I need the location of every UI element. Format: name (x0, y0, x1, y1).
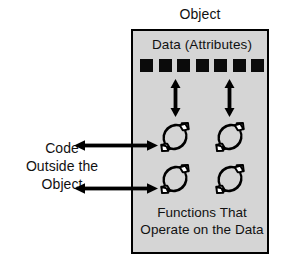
attribute-square-icon (214, 59, 227, 72)
diagram-canvas: Object Data (Attributes) (0, 0, 290, 268)
functions-caption-line-2: Operate on the Data (133, 221, 271, 238)
circular-arrow-icon (211, 118, 249, 156)
double-headed-vertical-arrow-icon (169, 79, 182, 117)
attribute-square-icon (233, 59, 246, 72)
data-attributes-label: Data (Attributes) (133, 37, 271, 53)
functions-caption-line-1: Functions That (133, 204, 271, 221)
object-title: Object (131, 6, 269, 23)
attribute-squares-row (140, 59, 264, 72)
double-headed-horizontal-arrow-icon (74, 182, 158, 195)
circular-arrow-icon (156, 118, 194, 156)
attribute-square-icon (196, 59, 209, 72)
double-headed-vertical-arrow-icon (223, 79, 236, 117)
functions-caption: Functions That Operate on the Data (133, 204, 271, 238)
attribute-square-icon (251, 59, 264, 72)
attribute-square-icon (177, 59, 190, 72)
attribute-square-icon (159, 59, 172, 72)
double-headed-horizontal-arrow-icon (74, 139, 158, 152)
attribute-square-icon (140, 59, 153, 72)
circular-arrow-icon (211, 160, 249, 198)
code-label-line-2: Outside the (2, 157, 122, 175)
circular-arrow-icon (156, 160, 194, 198)
